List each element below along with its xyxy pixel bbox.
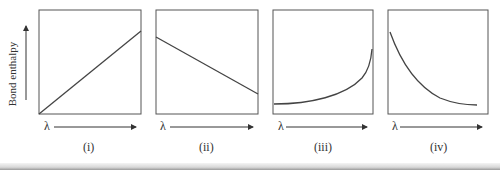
curve-iii: [274, 49, 372, 104]
curve-iv: [390, 32, 477, 105]
panel-label-iv: (iv): [430, 140, 447, 155]
panel-iv: [388, 10, 488, 127]
x-axis-symbol-i: λ: [44, 119, 50, 134]
panel-i: [39, 10, 141, 127]
curve-i: [39, 31, 141, 114]
diagram-canvas: [0, 0, 500, 170]
panel-iii: [273, 10, 373, 127]
panel-ii: [156, 10, 258, 127]
y-axis-label: Bond enthalpy: [2, 34, 22, 114]
x-axis-symbol-ii: λ: [160, 119, 166, 134]
curve-ii: [156, 37, 258, 94]
bottom-border: [0, 163, 500, 170]
panel-label-ii: (ii): [199, 140, 214, 155]
x-axis-symbol-iv: λ: [392, 119, 398, 134]
x-axis-symbol-iii: λ: [278, 119, 284, 134]
panel-label-iii: (iii): [314, 140, 332, 155]
panel-label-i: (i): [83, 140, 94, 155]
